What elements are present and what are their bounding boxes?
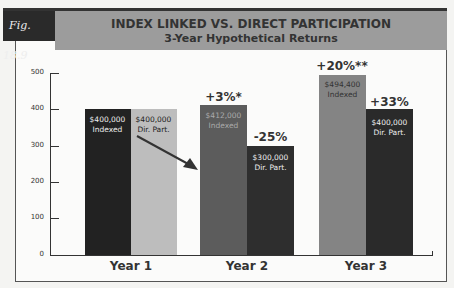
change-label: +3%* <box>200 90 247 104</box>
bar-label: $300,000Dir. Part. <box>247 153 294 173</box>
change-label: +33% <box>366 95 413 109</box>
bar-label: $400,000Dir. Part. <box>366 118 413 138</box>
x-label-year2: Year 2 <box>207 259 287 273</box>
change-label: -25% <box>247 130 294 144</box>
change-label: +20%** <box>312 59 372 73</box>
x-label-year3: Year 3 <box>326 259 406 273</box>
bar-year3-indexed <box>319 75 366 255</box>
bar-label: $494,400Indexed <box>319 80 366 100</box>
bar-label: $412,000Indexed <box>200 111 247 131</box>
x-label-year1: Year 1 <box>91 259 171 273</box>
